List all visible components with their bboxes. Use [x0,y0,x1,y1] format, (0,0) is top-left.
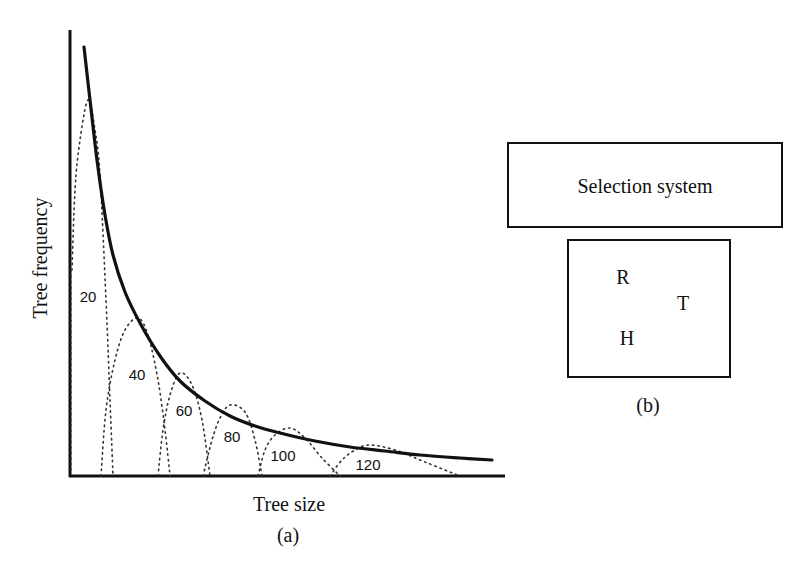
hump-label-120: 120 [355,456,380,473]
rth-box [568,240,730,377]
rth-letters: RTH [616,266,689,349]
letter-h: H [620,327,634,349]
panel-a-chart: 20406080100120 Tree frequency Tree size … [29,30,505,547]
envelope-curve [84,47,492,460]
hump-label-100: 100 [270,447,295,464]
hump-label-80: 80 [224,428,241,445]
hump-curve-60 [158,373,210,476]
hump-label-40: 40 [129,366,146,383]
size-class-humps [71,100,460,476]
hump-label-20: 20 [80,288,97,305]
hump-label-60: 60 [176,402,193,419]
letter-r: R [616,266,630,288]
panel-b-caption: (b) [636,394,659,417]
selection-system-label: Selection system [578,175,713,198]
hump-curve-120 [330,445,460,476]
panel-b-diagram: Selection system RTH (b) [508,143,782,417]
figure: 20406080100120 Tree frequency Tree size … [0,0,811,568]
y-axis-label: Tree frequency [29,198,52,319]
letter-t: T [677,292,689,314]
x-axis-label: Tree size [253,493,325,515]
panel-a-caption: (a) [277,524,299,547]
